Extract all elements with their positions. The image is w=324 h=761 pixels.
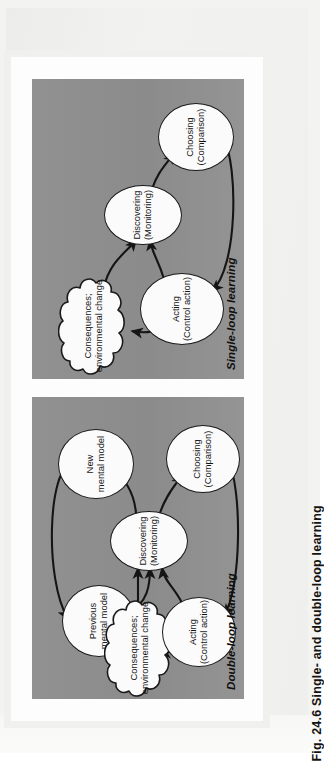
node-choosing-comparison[interactable]: Choosing (Comparison) [166,425,240,493]
node-discovering-monitoring[interactable]: Discovering (Monitoring) [110,511,188,571]
panel-single-loop-learning: Consequences; environmental change Actin… [32,79,244,379]
node-label-line2: (Monitoring) [149,516,160,566]
node-label-line2: (Control action) [199,599,210,663]
node-new-mental-model[interactable]: New mental model [58,429,134,499]
node-label-line2: (Comparison) [196,108,207,165]
panel-title-double-loop: Double-loop learning [225,573,237,690]
panel-double-loop-learning: Previous mental model New mental model [32,397,244,699]
node-acting-control-action[interactable]: Acting (Control action) [140,273,224,345]
node-choosing-comparison[interactable]: Choosing (Comparison) [158,103,234,171]
node-label-line1: Consequences; [128,615,139,680]
node-label-line1: Consequences; [82,293,93,358]
node-consequences-environmental-change[interactable]: Consequences; environmental change [58,265,130,379]
node-label-line2: mental model [96,435,107,491]
node-label-line2: environmental change [93,279,104,371]
figure-card: Previous mental model New mental model [11,57,263,721]
node-label-line2: environmental change [139,601,150,693]
node-label-line2: (Control action) [182,276,193,340]
node-discovering-monitoring[interactable]: Discovering (Monitoring) [104,185,182,245]
figure-caption: Fig. 24.6 Single- and double-loop learni… [310,505,324,761]
panel-title-single-loop: Single-loop learning [225,257,237,370]
figure-24-6: Previous mental model New mental model [11,21,301,721]
node-label-line2: (Monitoring) [143,190,154,240]
node-label-line2: (Comparison) [203,430,214,487]
